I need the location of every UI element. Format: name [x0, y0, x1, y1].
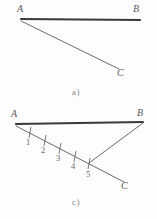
panel-c-label-a: A	[11, 109, 17, 119]
panel-a-graphics	[21, 19, 140, 69]
panel-a-label-c: C	[117, 68, 124, 78]
panel-c-label-b: B	[137, 108, 143, 118]
panel-a-caption: a)	[72, 88, 80, 97]
panel-a-segment-ac	[21, 21, 119, 69]
panel-c-segment-b5	[89, 123, 143, 163]
panel-a-label-b: B	[133, 4, 139, 14]
panel-a-label-a: A	[17, 4, 23, 14]
panel-c-segment-ab	[16, 122, 143, 124]
division-label-3: 3	[56, 154, 60, 163]
division-label-4: 4	[71, 162, 75, 171]
panel-c-graphics	[16, 122, 143, 182]
panel-c-caption: c)	[72, 198, 80, 207]
diagram-canvas	[0, 0, 157, 219]
division-label-2: 2	[41, 146, 45, 155]
division-label-5: 5	[86, 170, 90, 179]
figure-root: A B C a) A B C 1 2 3 4 5 c)	[0, 0, 157, 219]
division-label-1: 1	[26, 138, 30, 147]
panel-c-segment-ac	[16, 126, 124, 182]
panel-a-segment-ab	[21, 19, 140, 20]
panel-c-label-c: C	[121, 181, 128, 191]
